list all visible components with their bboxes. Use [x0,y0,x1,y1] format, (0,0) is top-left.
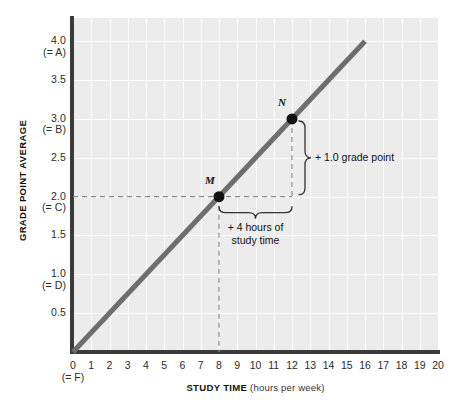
data-point-label-n: N [278,96,286,108]
x-tick-value: 14 [323,359,335,371]
gridline-vertical [164,18,165,352]
data-point-label-m: M [205,174,215,186]
gridline-vertical [274,18,275,352]
gridline-vertical [383,18,384,352]
y-tick-value: 3.0 [51,112,66,124]
gridline-vertical [201,18,202,352]
plot-area [73,18,438,352]
y-tick-grade: (= D) [20,280,66,292]
gridline-horizontal [73,119,438,120]
gridline-vertical [91,18,92,352]
x-tick-value: 3 [125,359,131,371]
annotation-run-label: + 4 hours of study time [196,221,316,247]
x-tick-value: 18 [396,359,408,371]
y-axis-title: GRADE POINT AVERAGE [17,111,28,251]
x-tick-value: 7 [198,359,204,371]
gridline-vertical [256,18,257,352]
x-tick-value: 2 [107,359,113,371]
x-tick-value: 17 [377,359,389,371]
gpa-study-time-chart: 0.51.0(= D)1.52.0(= C)2.53.0(= B)3.54.0(… [0,0,469,406]
x-tick-value: 19 [414,359,426,371]
gridline-vertical [347,18,348,352]
y-tick-value: 1.5 [51,228,66,240]
y-axis-line [70,16,74,354]
x-axis-title-main: STUDY TIME [186,382,247,393]
gridline-vertical [365,18,366,352]
y-tick-value: 2.0 [51,190,66,202]
gridline-vertical [110,18,111,352]
gridline-horizontal [73,313,438,314]
y-tick-label: 1.0(= D) [20,268,66,291]
gridline-horizontal [73,80,438,81]
x-tick-value: 10 [250,359,262,371]
gridline-vertical [292,18,293,352]
x-tick-value: 1 [88,359,94,371]
x-tick-value: 6 [180,359,186,371]
y-tick-label: 0.5 [20,307,66,319]
y-tick-label: 4.0(= A) [20,35,66,58]
gridline-vertical [128,18,129,352]
x-tick-value: 15 [341,359,353,371]
y-tick-value: 4.0 [51,34,66,46]
gridline-vertical [402,18,403,352]
x-tick-value: 16 [359,359,371,371]
x-axis-title: STUDY TIME (hours per week) [73,382,438,393]
gridline-horizontal [73,41,438,42]
x-tick-value: 12 [286,359,298,371]
x-axis-title-sub: (hours per week) [250,382,324,393]
gridline-horizontal [73,197,438,198]
x-tick-value: 13 [304,359,316,371]
y-tick-value: 3.5 [51,73,66,85]
gridline-vertical [219,18,220,352]
x-tick-value: 9 [234,359,240,371]
x-tick-value: 8 [216,359,222,371]
y-tick-value: 0.5 [51,306,66,318]
gridline-vertical [183,18,184,352]
annotation-rise-label: + 1.0 grade point [315,151,394,164]
gridline-vertical [420,18,421,352]
gridline-vertical [310,18,311,352]
gridline-horizontal [73,274,438,275]
gridline-vertical [438,18,439,352]
x-tick-value: 0 [70,359,76,371]
y-axis-tick-labels: 0.51.0(= D)1.52.0(= C)2.53.0(= B)3.54.0(… [0,0,66,406]
gridline-vertical [329,18,330,352]
x-tick-label: 20 [426,360,450,372]
x-axis-line [70,350,440,354]
y-tick-value: 2.5 [51,151,66,163]
gridline-vertical [146,18,147,352]
annotation-run-line2: study time [232,234,280,246]
y-tick-value: 1.0 [51,267,66,279]
y-tick-grade: (= A) [20,47,66,59]
x-tick-value: 11 [268,359,279,371]
y-tick-label: 3.5 [20,74,66,86]
x-tick-value: 20 [432,359,444,371]
x-tick-value: 5 [161,359,167,371]
x-tick-value: 4 [143,359,149,371]
gridline-vertical [237,18,238,352]
annotation-run-line1: + 4 hours of [228,221,284,233]
